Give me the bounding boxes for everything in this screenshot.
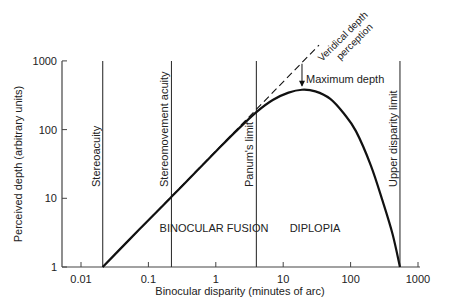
labels: Perceived depth (arbitrary units) Binocu… [12,9,384,297]
vertical-line-label: Upper disparity limit [387,90,399,187]
vertical-line-label: Panum's limit [243,122,255,187]
x-tick-label: 10 [277,273,289,285]
x-tick-label: 1000 [406,273,430,285]
arrowhead-icon [299,81,305,87]
vertical-reference-lines: StereoacuityStereomovement acuityPanum's… [90,61,400,267]
x-tick-label: 0.01 [70,273,91,285]
y-axis-label: Perceived depth (arbitrary units) [12,86,24,243]
y-tick-label: 100 [39,124,57,136]
region-label-diplopia: DIPLOPIA [290,222,341,234]
vertical-line-label: Stereoacuity [90,125,102,187]
region-label-binocular-fusion: BINOCULAR FUSION [160,222,269,234]
x-tick-label: 0.1 [141,273,156,285]
x-tick-label: 1 [213,273,219,285]
y-tick-label: 1000 [33,55,57,67]
chart: 11010010000.010.11101001000 Stereoacuity… [0,0,451,308]
annotation-veridical-depth: Veridical depth perception [316,9,379,72]
x-axis-label: Binocular disparity (minutes of arc) [155,285,324,297]
vertical-line-label: Stereomovement acuity [158,71,170,187]
annotation-maximum-depth: Maximum depth [306,73,384,85]
x-tick-label: 100 [341,273,359,285]
y-tick-label: 10 [45,192,57,204]
y-tick-label: 1 [51,261,57,273]
